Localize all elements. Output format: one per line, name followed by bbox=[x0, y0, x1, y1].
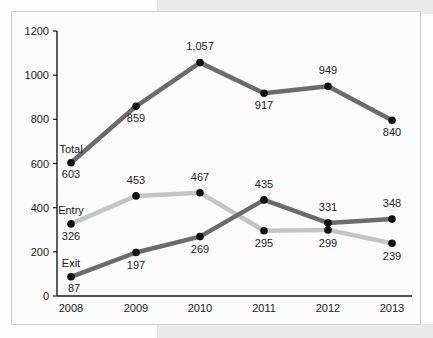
data-label-exit-2013: 348 bbox=[383, 197, 401, 209]
data-label-exit-2012: 331 bbox=[319, 201, 337, 213]
data-point-total-2012 bbox=[324, 82, 332, 90]
data-label-total-2008: 603 bbox=[62, 168, 80, 180]
data-point-exit-2010 bbox=[196, 233, 204, 241]
data-label-exit-2008: 87 bbox=[68, 282, 80, 294]
data-point-exit-2011 bbox=[260, 196, 268, 204]
data-point-entry-2010 bbox=[196, 189, 204, 197]
chart-plot-area: 0 200 400 600 800 1000 1200 2008 2009 20… bbox=[12, 12, 422, 326]
y-tick-label-800: 800 bbox=[31, 113, 49, 125]
data-point-entry-2013 bbox=[388, 239, 396, 247]
chart-card: 0 200 400 600 800 1000 1200 2008 2009 20… bbox=[11, 11, 421, 325]
y-tick-label-400: 400 bbox=[31, 202, 49, 214]
data-label-exit-2010: 269 bbox=[191, 243, 209, 255]
data-point-entry-2009 bbox=[132, 192, 140, 200]
series-label-total: Total bbox=[59, 143, 82, 155]
data-point-exit-2008 bbox=[67, 273, 75, 281]
y-tick-label-0: 0 bbox=[43, 290, 49, 302]
data-point-total-2011 bbox=[260, 90, 268, 98]
data-label-entry-2010: 467 bbox=[191, 171, 209, 183]
series-label-entry: Entry bbox=[58, 204, 84, 216]
data-point-entry-2012 bbox=[324, 226, 332, 234]
data-label-total-2013: 840 bbox=[383, 126, 401, 138]
data-label-entry-2011: 295 bbox=[255, 237, 273, 249]
data-point-exit-2013 bbox=[388, 215, 396, 223]
data-point-entry-2011 bbox=[260, 227, 268, 235]
y-tick-label-600: 600 bbox=[31, 158, 49, 170]
data-point-total-2010 bbox=[196, 59, 204, 67]
x-tick-label-2013: 2013 bbox=[380, 302, 404, 314]
data-point-total-2009 bbox=[132, 103, 140, 111]
x-tick-label-2012: 2012 bbox=[316, 302, 340, 314]
data-label-entry-2012: 299 bbox=[319, 237, 337, 249]
series-label-exit: Exit bbox=[62, 257, 80, 269]
x-tick-label-2009: 2009 bbox=[124, 302, 148, 314]
data-label-entry-2009: 453 bbox=[127, 174, 145, 186]
x-tick-label-2010: 2010 bbox=[188, 302, 212, 314]
data-label-entry-2013: 239 bbox=[383, 250, 401, 262]
data-label-total-2012: 949 bbox=[319, 64, 337, 76]
data-label-total-2009: 859 bbox=[127, 112, 145, 124]
y-tick-label-1000: 1000 bbox=[25, 69, 49, 81]
background-band-bottom bbox=[157, 324, 433, 338]
line-chart: 0 200 400 600 800 1000 1200 2008 2009 20… bbox=[12, 12, 422, 326]
data-point-exit-2012 bbox=[324, 219, 332, 227]
data-label-exit-2009: 197 bbox=[127, 259, 145, 271]
data-point-exit-2009 bbox=[132, 249, 140, 257]
data-point-total-2013 bbox=[388, 116, 396, 124]
data-label-total-2010: 1,057 bbox=[186, 40, 214, 52]
data-label-entry-2008: 326 bbox=[62, 230, 80, 242]
data-label-exit-2011: 435 bbox=[255, 178, 273, 190]
x-tick-label-2011: 2011 bbox=[252, 302, 276, 314]
data-point-entry-2008 bbox=[67, 220, 75, 228]
data-point-total-2008 bbox=[67, 159, 75, 167]
series-line-total bbox=[71, 63, 392, 163]
x-tick-label-2008: 2008 bbox=[59, 302, 83, 314]
y-tick-label-1200: 1200 bbox=[25, 25, 49, 37]
data-label-total-2011: 917 bbox=[255, 99, 273, 111]
y-tick-label-200: 200 bbox=[31, 246, 49, 258]
